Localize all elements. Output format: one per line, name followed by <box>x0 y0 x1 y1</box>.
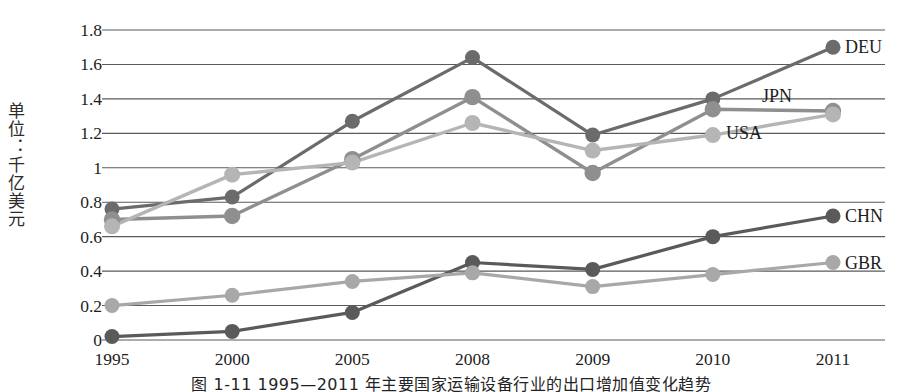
data-point-jpn <box>464 89 480 105</box>
x-axis-tick-label: 2000 <box>215 349 250 370</box>
data-point-usa <box>705 127 721 143</box>
data-point-usa <box>465 115 481 131</box>
data-point-gbr <box>705 267 720 282</box>
x-axis-tick-label: 2008 <box>455 349 490 370</box>
data-point-usa <box>104 218 120 234</box>
data-point-gbr <box>105 298 120 313</box>
data-point-deu <box>826 40 841 55</box>
data-point-deu <box>585 128 600 143</box>
data-point-chn <box>826 209 841 224</box>
data-point-jpn <box>224 208 240 224</box>
data-point-deu <box>345 114 360 129</box>
series-label-gbr: GBR <box>845 252 882 273</box>
data-point-gbr <box>826 255 841 270</box>
data-point-gbr <box>225 288 240 303</box>
data-point-usa <box>585 143 601 159</box>
x-axis-tick-label: 1995 <box>95 349 130 370</box>
series-label-chn: CHN <box>845 206 883 227</box>
data-point-usa <box>344 155 360 171</box>
x-axis-tick-label: 2005 <box>335 349 370 370</box>
series-line-usa <box>112 114 833 226</box>
data-point-deu <box>465 50 480 65</box>
data-point-gbr <box>465 265 480 280</box>
data-point-deu <box>225 190 240 205</box>
chart-figure: 单位：千亿美元 1.81.61.41.210.80.60.40.20 19952… <box>0 0 903 392</box>
data-point-jpn <box>584 165 600 181</box>
data-point-chn <box>345 305 360 320</box>
x-axis-tick-label: 2009 <box>575 349 610 370</box>
figure-caption: 图 1-11 1995—2011 年主要国家运输设备行业的出口增加值变化趋势 <box>0 371 903 392</box>
data-point-chn <box>705 229 720 244</box>
x-axis-tick-label: 2010 <box>695 349 730 370</box>
series-label-usa: USA <box>726 122 762 143</box>
data-point-usa <box>224 167 240 183</box>
series-label-deu: DEU <box>845 37 882 58</box>
data-point-chn <box>225 324 240 339</box>
data-point-jpn <box>705 101 721 117</box>
plot-area <box>0 0 903 392</box>
data-point-gbr <box>585 279 600 294</box>
data-point-gbr <box>345 274 360 289</box>
data-point-usa <box>825 106 841 122</box>
series-label-jpn: JPN <box>762 85 792 106</box>
x-axis-tick-label: 2011 <box>816 349 850 370</box>
data-point-chn <box>585 262 600 277</box>
data-point-chn <box>105 329 120 344</box>
series-markers <box>104 40 841 344</box>
